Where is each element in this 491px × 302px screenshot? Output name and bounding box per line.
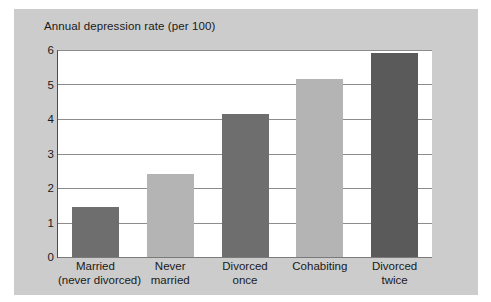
gridline-0 xyxy=(58,257,432,258)
y-tick-label-5: 5 xyxy=(32,79,54,91)
gridline-4 xyxy=(58,119,432,120)
x-tick-label-line2: (never divorced) xyxy=(58,274,133,288)
y-tick-label-3: 3 xyxy=(32,148,54,160)
chart-title: Annual depression rate (per 100) xyxy=(44,20,215,32)
y-tick-label-4: 4 xyxy=(32,113,54,125)
x-axis-tick-labels: Married(never divorced)NevermarriedDivor… xyxy=(58,260,432,300)
x-tick-label-line1: Cohabiting xyxy=(292,260,347,272)
x-tick-label-2: Nevermarried xyxy=(133,260,208,287)
x-tick-label-line2: twice xyxy=(357,274,432,288)
y-tick-label-1: 1 xyxy=(32,217,54,229)
gridline-3 xyxy=(58,154,432,155)
plot-area xyxy=(58,50,432,257)
y-axis-tick-labels: 0123456 xyxy=(26,50,54,257)
x-tick-label-line1: Divorced xyxy=(222,260,267,272)
x-tick-label-line1: Never xyxy=(155,260,186,272)
x-tick-label-line1: Divorced xyxy=(372,260,417,272)
x-tick-label-line2: once xyxy=(208,274,283,288)
x-tick-label-5: Divorcedtwice xyxy=(357,260,432,287)
figure-canvas: Annual depression rate (per 100) 0123456… xyxy=(0,0,491,302)
x-tick-label-line1: Married xyxy=(76,260,115,272)
y-tick-label-6: 6 xyxy=(32,44,54,56)
gridline-6 xyxy=(58,50,432,51)
x-tick-label-3: Divorcedonce xyxy=(208,260,283,287)
gridline-2 xyxy=(58,188,432,189)
gridline-1 xyxy=(58,223,432,224)
gridline-5 xyxy=(58,84,432,85)
y-tick-label-2: 2 xyxy=(32,182,54,194)
y-axis-line xyxy=(57,50,58,258)
x-tick-label-4: Cohabiting xyxy=(282,260,357,274)
x-tick-label-line2: married xyxy=(133,274,208,288)
x-tick-label-1: Married(never divorced) xyxy=(58,260,133,287)
y-tick-label-0: 0 xyxy=(32,251,54,263)
